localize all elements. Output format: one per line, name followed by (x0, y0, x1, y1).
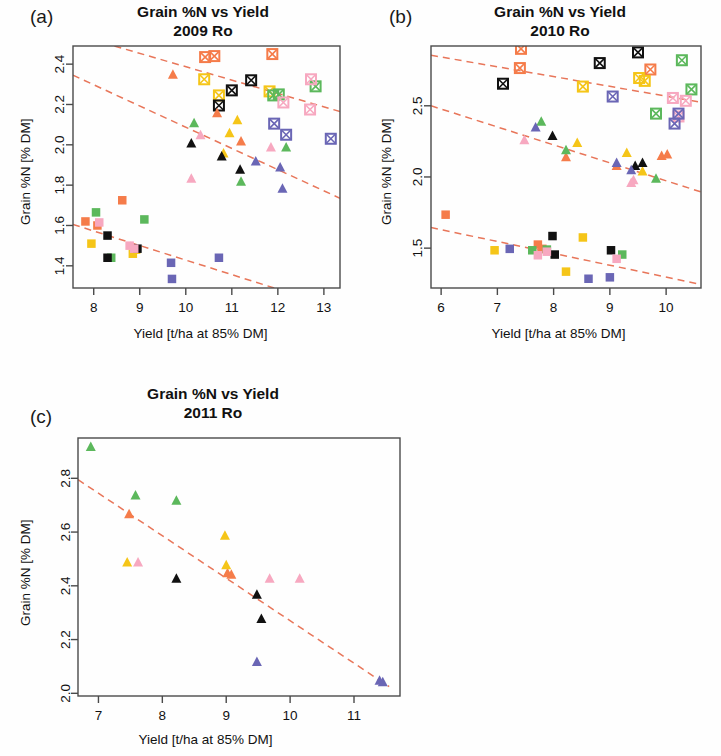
panel-c-title-line2: 2011 Ro (88, 403, 338, 422)
data-point-crossed-square (578, 82, 588, 92)
panel-b: (b) Grain %N vs Yield 2010 Ro 6789101.52… (361, 0, 721, 360)
data-point-triangle (612, 158, 622, 168)
data-point-square (81, 217, 90, 226)
trendline (431, 55, 701, 102)
data-point-square (584, 274, 593, 283)
x-tick-label: 10 (659, 300, 674, 315)
data-point-crossed-square (199, 74, 209, 84)
y-tick-label: 1.4 (53, 256, 68, 275)
data-point-triangle (186, 173, 196, 183)
marker-group (441, 44, 696, 283)
data-point-square (118, 196, 127, 205)
x-tick-label: 9 (222, 708, 230, 723)
data-point-square (548, 232, 557, 241)
y-tick-label: 2.0 (411, 168, 426, 187)
data-point-square (543, 247, 552, 256)
x-tick-label: 12 (270, 300, 285, 315)
data-point-square (140, 215, 149, 224)
data-point-crossed-square (668, 93, 678, 103)
data-point-crossed-square (214, 100, 224, 110)
data-point-triangle (221, 560, 231, 570)
data-point-triangle (651, 173, 661, 183)
data-point-square (612, 255, 621, 263)
plot-frame (78, 438, 400, 696)
panel-a-xlabel: Yield [t/ha at 85% DM] (73, 326, 328, 341)
marker-group (81, 49, 336, 283)
trendline (78, 480, 389, 687)
figure-root: (a) Grain %N vs Yield 2009 Ro 8910111213… (0, 0, 721, 756)
data-point-triangle (638, 166, 648, 176)
data-point-triangle (295, 573, 305, 583)
data-point-square (103, 231, 112, 240)
data-point-crossed-square (677, 55, 687, 65)
y-tick-label: 2.4 (53, 54, 68, 73)
x-tick-label: 11 (225, 300, 239, 315)
data-point-crossed-square (651, 109, 661, 119)
x-tick-label: 9 (136, 300, 144, 315)
trendline-group (431, 55, 701, 284)
x-tick-label: 7 (494, 300, 502, 315)
data-point-crossed-square (681, 96, 691, 106)
data-point-square (606, 273, 615, 282)
panel-c-xlabel: Yield [t/ha at 85% DM] (78, 732, 333, 747)
x-tick-label: 6 (437, 300, 445, 315)
data-point-crossed-square (686, 84, 696, 94)
data-point-crossed-square (608, 92, 618, 102)
data-point-triangle (122, 557, 132, 567)
data-point-triangle (662, 149, 672, 159)
x-tick-label: 10 (178, 300, 193, 315)
panel-a-ylabel: Grain %N [% DM] (18, 118, 33, 225)
x-tick-label: 10 (283, 708, 298, 723)
panel-c-tag: (c) (30, 406, 52, 428)
data-point-triangle (252, 589, 262, 599)
data-point-square (168, 275, 177, 284)
panel-b-xlabel: Yield [t/ha at 85% DM] (431, 326, 686, 341)
y-tick-label: 2.2 (58, 630, 73, 649)
data-point-triangle (266, 142, 276, 152)
panel-b-title-line1: Grain %N vs Yield (494, 3, 626, 20)
data-point-square (167, 259, 176, 268)
data-point-triangle (189, 118, 199, 128)
data-point-triangle (629, 175, 639, 185)
data-point-triangle (236, 136, 246, 146)
data-point-triangle (86, 442, 96, 452)
y-tick-label: 1.8 (53, 176, 68, 195)
data-point-triangle (256, 614, 266, 624)
y-tick-label: 2.2 (53, 95, 68, 114)
y-tick-label: 1.5 (411, 239, 426, 258)
data-point-square (441, 210, 450, 219)
data-point-triangle (220, 530, 230, 540)
data-point-square (215, 254, 224, 263)
trendline (73, 75, 340, 198)
panel-b-tag: (b) (389, 6, 412, 28)
panel-a: (a) Grain %N vs Yield 2009 Ro 8910111213… (0, 0, 360, 360)
x-tick-label: 11 (347, 708, 361, 723)
x-tick-label: 7 (95, 708, 103, 723)
data-point-triangle (186, 138, 196, 148)
data-point-square (103, 254, 112, 263)
data-point-square (579, 233, 588, 242)
y-tick-label: 2.0 (53, 135, 68, 154)
data-point-triangle (622, 148, 632, 158)
plot-frame (431, 46, 701, 288)
data-point-crossed-square (281, 130, 291, 140)
data-point-triangle (133, 557, 143, 567)
data-point-crossed-square (595, 58, 605, 68)
x-tick-label: 8 (159, 708, 167, 723)
data-point-square (562, 267, 571, 276)
y-tick-label: 1.6 (53, 216, 68, 235)
data-point-crossed-square (246, 75, 256, 85)
panel-c-title-line1: Grain %N vs Yield (147, 385, 279, 402)
y-tick-label: 2.4 (58, 576, 73, 595)
data-point-triangle (171, 495, 181, 505)
data-point-triangle (536, 116, 546, 126)
data-point-triangle (252, 657, 262, 667)
data-point-triangle (281, 142, 291, 152)
data-point-triangle (265, 573, 275, 583)
panel-c-plot: 78910112.02.22.42.62.8 (0, 428, 430, 738)
data-point-crossed-square (305, 105, 315, 115)
panel-b-plot: 6789101.52.02.5 (361, 40, 721, 350)
data-point-square (534, 251, 543, 260)
data-point-square (87, 239, 96, 248)
data-point-triangle (277, 183, 287, 193)
